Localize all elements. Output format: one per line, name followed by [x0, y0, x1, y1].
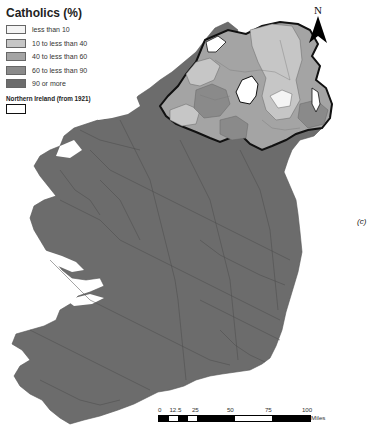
scale-unit: Miles [311, 414, 325, 421]
legend-swatch [6, 52, 26, 61]
panel-label: (c) [357, 217, 366, 226]
legend-item: 40 to less than 60 [6, 50, 124, 64]
scale-bar-graphic [158, 415, 311, 422]
scale-tick: 0 [158, 406, 161, 413]
legend-item: 60 to less than 90 [6, 64, 124, 78]
scale-tick: 50 [227, 406, 234, 413]
legend-swatch [6, 25, 26, 34]
scale-tick: 75 [265, 406, 272, 413]
legend-label: 10 to less than 40 [32, 40, 87, 47]
scale-bar: 0 12.5 25 50 75 100 Miles [158, 406, 358, 422]
legend-label: 90 or more [32, 80, 66, 87]
legend-swatch [6, 39, 26, 48]
boundary-legend-title: Northern Ireland (from 1921) [6, 95, 124, 102]
north-label: N [303, 4, 333, 16]
north-arrow: N [303, 4, 333, 48]
legend-item: less than 10 [6, 23, 124, 37]
map-legend: Catholics (%) less than 10 10 to less th… [4, 6, 124, 114]
legend-title: Catholics (%) [6, 6, 124, 20]
legend-swatch [6, 66, 26, 75]
scale-tick: 100 [302, 406, 312, 413]
legend-label: less than 10 [32, 26, 70, 33]
scale-tick: 12.5 [169, 406, 181, 413]
north-arrow-icon [308, 16, 328, 44]
legend-swatch [6, 79, 26, 88]
legend-label: 60 to less than 90 [32, 67, 87, 74]
boundary-legend-swatch [6, 104, 26, 114]
scale-ticks: 0 12.5 25 50 75 100 [158, 406, 358, 415]
scale-tick: 25 [192, 406, 199, 413]
legend-label: 40 to less than 60 [32, 53, 87, 60]
legend-item: 10 to less than 40 [6, 37, 124, 51]
legend-item: 90 or more [6, 77, 124, 91]
